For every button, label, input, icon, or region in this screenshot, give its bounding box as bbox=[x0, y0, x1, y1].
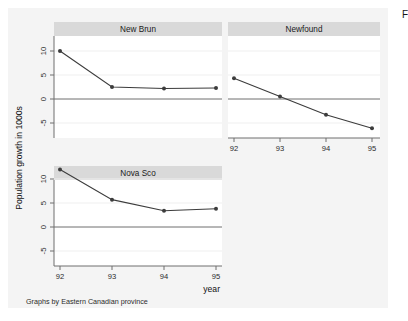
plot-surface: New Brun 10 5 0 -5 bbox=[8, 8, 388, 308]
x-tick-label-92-newfound: 92 bbox=[230, 144, 238, 153]
y-tick-label-minus5-nova-sco: -5 bbox=[39, 248, 48, 255]
panel-plot-area-nova-sco bbox=[54, 180, 222, 266]
panel-newfound: Newfound 92 93 94 95 bbox=[228, 22, 380, 153]
x-tick-label-94-nova-sco: 94 bbox=[160, 272, 168, 281]
y-tick-label-0-nova-sco: 0 bbox=[39, 225, 48, 229]
data-point bbox=[110, 198, 114, 202]
panel-title-nova-sco: Nova Sco bbox=[120, 169, 156, 178]
x-axis-title: year bbox=[203, 284, 220, 294]
x-tick-label-93-newfound: 93 bbox=[276, 144, 284, 153]
y-tick-label-5-nova-sco: 5 bbox=[39, 201, 48, 205]
figure-canvas: New Brun 10 5 0 -5 bbox=[8, 8, 388, 308]
y-tick-label-10-new-brun: 10 bbox=[39, 47, 48, 55]
data-point bbox=[58, 49, 62, 53]
y-tick-label-0-new-brun: 0 bbox=[39, 97, 48, 101]
x-tick-label-95-nova-sco: 95 bbox=[212, 272, 220, 281]
panel-new-brun: New Brun 10 5 0 -5 bbox=[39, 22, 222, 138]
x-tick-label-95-newfound: 95 bbox=[368, 144, 376, 153]
data-point bbox=[278, 95, 282, 99]
chart-svg: New Brun 10 5 0 -5 bbox=[8, 8, 388, 308]
x-tick-label-94-newfound: 94 bbox=[322, 144, 330, 153]
data-point bbox=[58, 167, 62, 171]
data-point bbox=[162, 86, 166, 90]
y-tick-label-10-nova-sco: 10 bbox=[39, 175, 48, 183]
y-axis-title: Population growth in 1000s bbox=[14, 106, 24, 210]
data-point bbox=[232, 76, 236, 80]
panel-title-new-brun: New Brun bbox=[120, 25, 156, 34]
data-point bbox=[214, 86, 218, 90]
data-point bbox=[214, 207, 218, 211]
y-tick-label-5-new-brun: 5 bbox=[39, 73, 48, 77]
data-point bbox=[370, 126, 374, 130]
x-tick-label-93-nova-sco: 93 bbox=[108, 272, 116, 281]
figure-note: Graphs by Eastern Canadian province bbox=[26, 297, 148, 306]
corner-text-fragment: F bbox=[402, 9, 408, 20]
data-point bbox=[324, 113, 328, 117]
panel-nova-sco: Nova Sco 10 5 0 -5 bbox=[39, 166, 222, 281]
x-tick-label-92-nova-sco: 92 bbox=[56, 272, 64, 281]
data-point bbox=[162, 209, 166, 213]
data-point bbox=[110, 85, 114, 89]
y-tick-label-minus5-new-brun: -5 bbox=[39, 120, 48, 127]
panel-title-newfound: Newfound bbox=[286, 25, 323, 34]
